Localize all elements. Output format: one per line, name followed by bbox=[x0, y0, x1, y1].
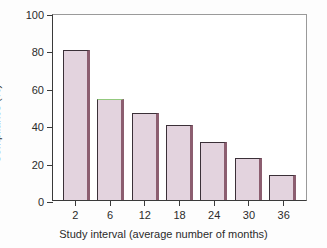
x-tick-label: 24 bbox=[208, 210, 220, 221]
y-tick-label: 40 bbox=[32, 122, 44, 133]
bar-slot bbox=[59, 15, 93, 200]
y-tick-label: 100 bbox=[26, 10, 44, 21]
bar-series bbox=[53, 15, 306, 200]
x-tick-label: 12 bbox=[139, 210, 151, 221]
bar-slot bbox=[162, 15, 196, 200]
plot-area: 020406080100 bbox=[52, 14, 307, 201]
x-tick-label: 2 bbox=[72, 210, 78, 221]
x-tick-mark bbox=[110, 201, 111, 206]
x-tick-mark bbox=[75, 201, 76, 206]
x-tick-label: 30 bbox=[243, 210, 255, 221]
bar-24-months bbox=[200, 142, 227, 200]
bar-2-months bbox=[63, 50, 90, 200]
x-tick-30: 30 bbox=[232, 201, 267, 223]
bar-chart-figure: Compliance (%) 020406080100 261218243036… bbox=[0, 0, 327, 248]
y-tick-label: 60 bbox=[32, 84, 44, 95]
x-tick-mark bbox=[248, 201, 249, 206]
x-tick-mark bbox=[179, 201, 180, 206]
x-tick-12: 12 bbox=[127, 201, 162, 223]
y-axis-title: Compliance (%) bbox=[0, 85, 2, 163]
x-tick-label: 36 bbox=[278, 210, 290, 221]
x-tick-mark bbox=[144, 201, 145, 206]
bar-18-months bbox=[166, 125, 193, 200]
x-tick-36: 36 bbox=[266, 201, 301, 223]
y-tick-label: 80 bbox=[32, 47, 44, 58]
x-tick-mark bbox=[283, 201, 284, 206]
bar-slot bbox=[231, 15, 265, 200]
bar-12-months bbox=[132, 113, 159, 200]
x-tick-mark bbox=[214, 201, 215, 206]
x-axis-title: Study interval (average number of months… bbox=[0, 228, 327, 240]
x-tick-24: 24 bbox=[197, 201, 232, 223]
bar-slot bbox=[197, 15, 231, 200]
x-tick-label: 18 bbox=[173, 210, 185, 221]
x-tick-6: 6 bbox=[93, 201, 128, 223]
bar-30-months bbox=[235, 158, 262, 200]
bar-slot bbox=[93, 15, 127, 200]
y-tick-label: 20 bbox=[32, 159, 44, 170]
bar-slot bbox=[128, 15, 162, 200]
x-tick-18: 18 bbox=[162, 201, 197, 223]
y-tick-label: 0 bbox=[38, 197, 44, 208]
x-tick-label: 6 bbox=[107, 210, 113, 221]
x-tick-2: 2 bbox=[58, 201, 93, 223]
x-axis-ticks: 261218243036 bbox=[52, 201, 307, 223]
bar-36-months bbox=[269, 175, 296, 200]
bar-slot bbox=[266, 15, 300, 200]
bar-6-months bbox=[97, 99, 124, 200]
